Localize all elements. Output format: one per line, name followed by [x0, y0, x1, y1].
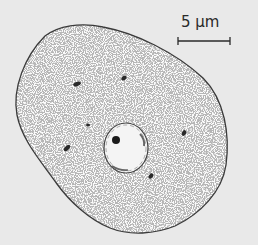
nucleus: [104, 123, 148, 173]
organelle: [86, 124, 90, 127]
cytoplasm-texture: [0, 0, 258, 245]
scale-bar-label: 5 μm: [181, 15, 219, 30]
scale-bar: [178, 37, 230, 45]
nucleolus: [112, 136, 120, 144]
cell-diagram: [0, 0, 258, 245]
nucleus-envelope: [104, 123, 148, 173]
